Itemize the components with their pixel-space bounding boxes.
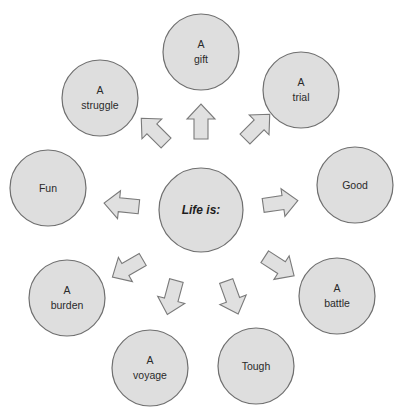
arrow-to-good-icon <box>261 187 300 220</box>
node-battle-article: A <box>324 281 350 296</box>
node-good-label: Good <box>342 178 368 193</box>
node-tough-word: Tough <box>242 359 271 374</box>
node-voyage-article: A <box>133 353 167 368</box>
node-fun-word: Fun <box>39 181 57 196</box>
arrow-to-fun-icon <box>103 189 141 221</box>
node-voyage-word: voyage <box>133 368 167 383</box>
node-burden-label: Aburden <box>51 283 84 313</box>
arrow-to-gift-icon <box>187 104 215 139</box>
arrow-to-tough-icon <box>213 276 251 318</box>
node-voyage-label: Avoyage <box>133 353 167 383</box>
node-burden-article: A <box>51 283 84 298</box>
node-trial-label: Atrial <box>293 75 310 105</box>
node-struggle-label: Astruggle <box>81 83 118 113</box>
node-gift-label: Agift <box>194 37 208 67</box>
node-tough-label: Tough <box>242 359 271 374</box>
node-burden-word: burden <box>51 298 84 313</box>
node-battle-label: Abattle <box>324 281 350 311</box>
arrow-to-battle-icon <box>257 245 302 288</box>
node-good-word: Good <box>342 178 368 193</box>
node-battle-word: battle <box>324 296 350 311</box>
arrow-to-struggle-icon <box>131 108 176 153</box>
node-gift-word: gift <box>194 52 208 67</box>
arrow-to-burden-icon <box>105 247 149 289</box>
arrow-to-voyage-icon <box>154 277 190 318</box>
center-node-label: Life is: <box>182 203 221 218</box>
node-struggle-word: struggle <box>81 98 118 113</box>
node-trial-word: trial <box>293 90 310 105</box>
node-trial-article: A <box>293 75 310 90</box>
node-fun-label: Fun <box>39 181 57 196</box>
node-gift-article: A <box>194 37 208 52</box>
node-struggle-article: A <box>81 83 118 98</box>
